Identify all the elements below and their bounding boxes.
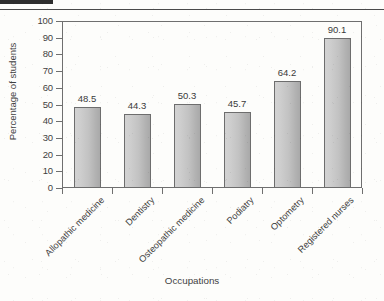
x-axis-tick — [162, 188, 163, 194]
bar — [174, 104, 201, 188]
bar — [324, 38, 351, 188]
x-axis-category-label: Dentistry — [123, 195, 156, 228]
x-axis-tick — [112, 188, 113, 194]
bar — [124, 114, 151, 188]
y-axis-tick-label: 10 — [0, 166, 53, 176]
bar — [74, 107, 101, 188]
bar-value-label: 50.3 — [164, 91, 210, 101]
y-axis-title: Percentage of students — [7, 17, 18, 167]
y-axis-tick — [56, 105, 62, 106]
bar-chart: 0102030405060708090100 Percentage of stu… — [0, 0, 384, 301]
x-axis-tick — [212, 188, 213, 194]
y-axis-tick — [56, 121, 62, 122]
x-axis-category-label: Optometry — [269, 195, 306, 232]
y-axis-tick — [56, 21, 62, 22]
x-axis-tick — [62, 188, 63, 194]
bar-value-label: 45.7 — [214, 99, 260, 109]
y-axis-tick — [56, 155, 62, 156]
y-axis-tick — [56, 71, 62, 72]
x-axis-tick — [362, 188, 363, 194]
y-axis-tick — [56, 38, 62, 39]
bar-value-label: 90.1 — [314, 25, 360, 35]
y-axis-tick-label: 0 — [0, 183, 53, 193]
y-axis-tick — [56, 138, 62, 139]
x-axis-category-label: Allopathic medicine — [43, 195, 106, 258]
bar — [224, 112, 251, 188]
y-axis-tick — [56, 54, 62, 55]
x-axis-tick — [312, 188, 313, 194]
bar-value-label: 48.5 — [64, 94, 110, 104]
x-axis-title: Occupations — [0, 275, 384, 286]
x-axis-category-label: Podiatry — [225, 195, 256, 226]
y-axis-tick — [56, 88, 62, 89]
bar-value-label: 44.3 — [114, 101, 160, 111]
y-axis-tick — [56, 171, 62, 172]
bar — [274, 81, 301, 188]
bar-value-label: 64.2 — [264, 68, 310, 78]
scanned-chart-page: 0102030405060708090100 Percentage of stu… — [0, 0, 384, 301]
x-axis-category-label: Registered nurses — [296, 195, 356, 255]
plot-area — [62, 21, 362, 188]
x-axis-tick — [262, 188, 263, 194]
